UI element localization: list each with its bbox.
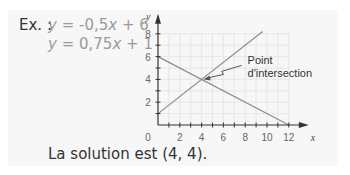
svg-text:2: 2	[177, 132, 183, 143]
svg-text:12: 12	[283, 132, 295, 143]
svg-text:6: 6	[145, 52, 151, 63]
svg-text:8: 8	[242, 132, 248, 143]
svg-text:d'intersection: d'intersection	[248, 67, 312, 79]
svg-text:Point: Point	[248, 54, 273, 66]
svg-text:4: 4	[145, 74, 151, 85]
svg-text:10: 10	[261, 132, 273, 143]
svg-text:6: 6	[221, 132, 227, 143]
svg-text:0: 0	[145, 132, 151, 143]
solution-text: La solution est (4, 4).	[48, 145, 207, 163]
intersection-annotation: Pointd'intersection	[204, 54, 312, 80]
y-axis-arrow-icon	[155, 14, 161, 24]
svg-text:x: x	[310, 132, 316, 143]
svg-text:2: 2	[145, 97, 151, 108]
svg-text:4: 4	[199, 132, 205, 143]
svg-text:y: y	[145, 11, 151, 22]
svg-text:8: 8	[145, 29, 151, 40]
x-axis-arrow-icon	[299, 122, 309, 128]
